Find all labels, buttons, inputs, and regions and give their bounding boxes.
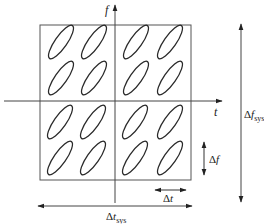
delta-t-label: Δt [163,192,174,204]
ellipse-cell [154,102,187,142]
delta-t-sys-label: Δtsys [106,210,126,224]
ellipse-cell [120,58,153,98]
ellipse-cell [78,22,111,62]
ellipse-cell [78,58,111,98]
ellipse-cell [154,22,187,62]
ellipse-cell [45,22,78,62]
ellipse-cell [120,22,153,62]
delta-f-sys-label: Δfsys [244,108,264,123]
ellipse-cell [119,102,152,142]
t-axis-label: t [214,105,218,119]
delta-f-label: Δf [209,153,221,165]
f-axis-label: f [105,3,110,17]
ellipse-cell [44,138,77,178]
ellipse-cell [119,138,152,178]
ellipse-cell [44,102,77,142]
ellipse-cell [77,138,110,178]
ellipse-cell [77,102,110,142]
time-frequency-diagram: t f Δf Δt Δtsys Δ [0,0,264,224]
ellipse-cell [154,138,187,178]
ellipse-cell [45,58,78,98]
ellipse-cell [154,58,187,98]
